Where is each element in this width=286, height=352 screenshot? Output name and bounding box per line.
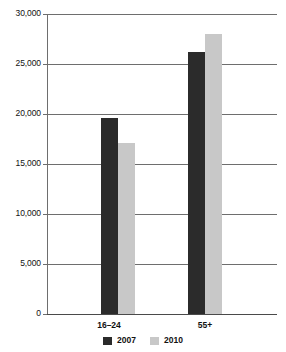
legend-swatch-icon-2010 [150, 337, 159, 345]
y-axis-label-20000: 20,000 [0, 109, 41, 118]
gridline-25000 [47, 64, 277, 65]
legend-swatch-icon-2007 [103, 337, 112, 345]
y-axis-label-15000: 15,000 [0, 159, 41, 168]
bar-2010-55-plus [205, 34, 222, 314]
y-axis-label-5000: 5,000 [0, 259, 41, 268]
gridline-5000 [47, 264, 277, 265]
bar-2007-55-plus [188, 52, 205, 314]
gridline-10000 [47, 214, 277, 215]
bar-2010-16-24 [118, 143, 135, 314]
y-axis-label-0: 0 [0, 309, 41, 318]
x-axis-category-16-24: 16–24 [81, 320, 137, 330]
plot-area [47, 14, 277, 314]
legend-item-2010: 2010 [150, 336, 183, 345]
gridline-30000 [47, 14, 277, 15]
gridline-15000 [47, 164, 277, 165]
bar-2007-16-24 [101, 118, 118, 314]
y-axis-label-10000: 10,000 [0, 209, 41, 218]
legend-label-2010: 2010 [164, 336, 183, 345]
legend-label-2007: 2007 [117, 336, 136, 345]
y-axis-label-25000: 25,000 [0, 59, 41, 68]
gridline-20000 [47, 114, 277, 115]
bar-chart: 30,000 25,000 20,000 15,000 10,000 5,000… [0, 0, 286, 352]
x-axis-category-55-plus: 55+ [177, 320, 233, 330]
legend-item-2007: 2007 [103, 336, 136, 345]
y-axis-label-30000: 30,000 [0, 9, 41, 18]
x-axis-baseline [47, 314, 277, 315]
chart-legend: 2007 2010 [0, 336, 286, 345]
